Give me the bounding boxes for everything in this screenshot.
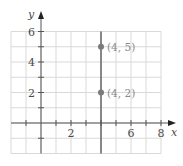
point-label: (4, 5) [107,41,135,53]
data-points: (4, 5)(4, 2) [98,41,135,99]
data-point [98,90,104,96]
x-tick-label: 8 [158,127,165,140]
y-tick-label: 6 [28,26,35,39]
y-axis-arrow-icon [38,11,44,19]
x-tick-label: 2 [68,127,75,140]
point-label: (4, 2) [107,87,135,99]
x-axis-label: x [171,126,178,139]
axes [11,11,176,154]
coordinate-plane: 268246 (4, 5)(4, 2) x y [0,0,183,166]
axis-ticks [26,32,161,139]
data-point [98,44,104,50]
x-tick-label: 6 [128,127,135,140]
y-tick-label: 4 [28,56,35,69]
y-axis-label: y [27,8,35,21]
y-tick-label: 2 [28,87,35,100]
